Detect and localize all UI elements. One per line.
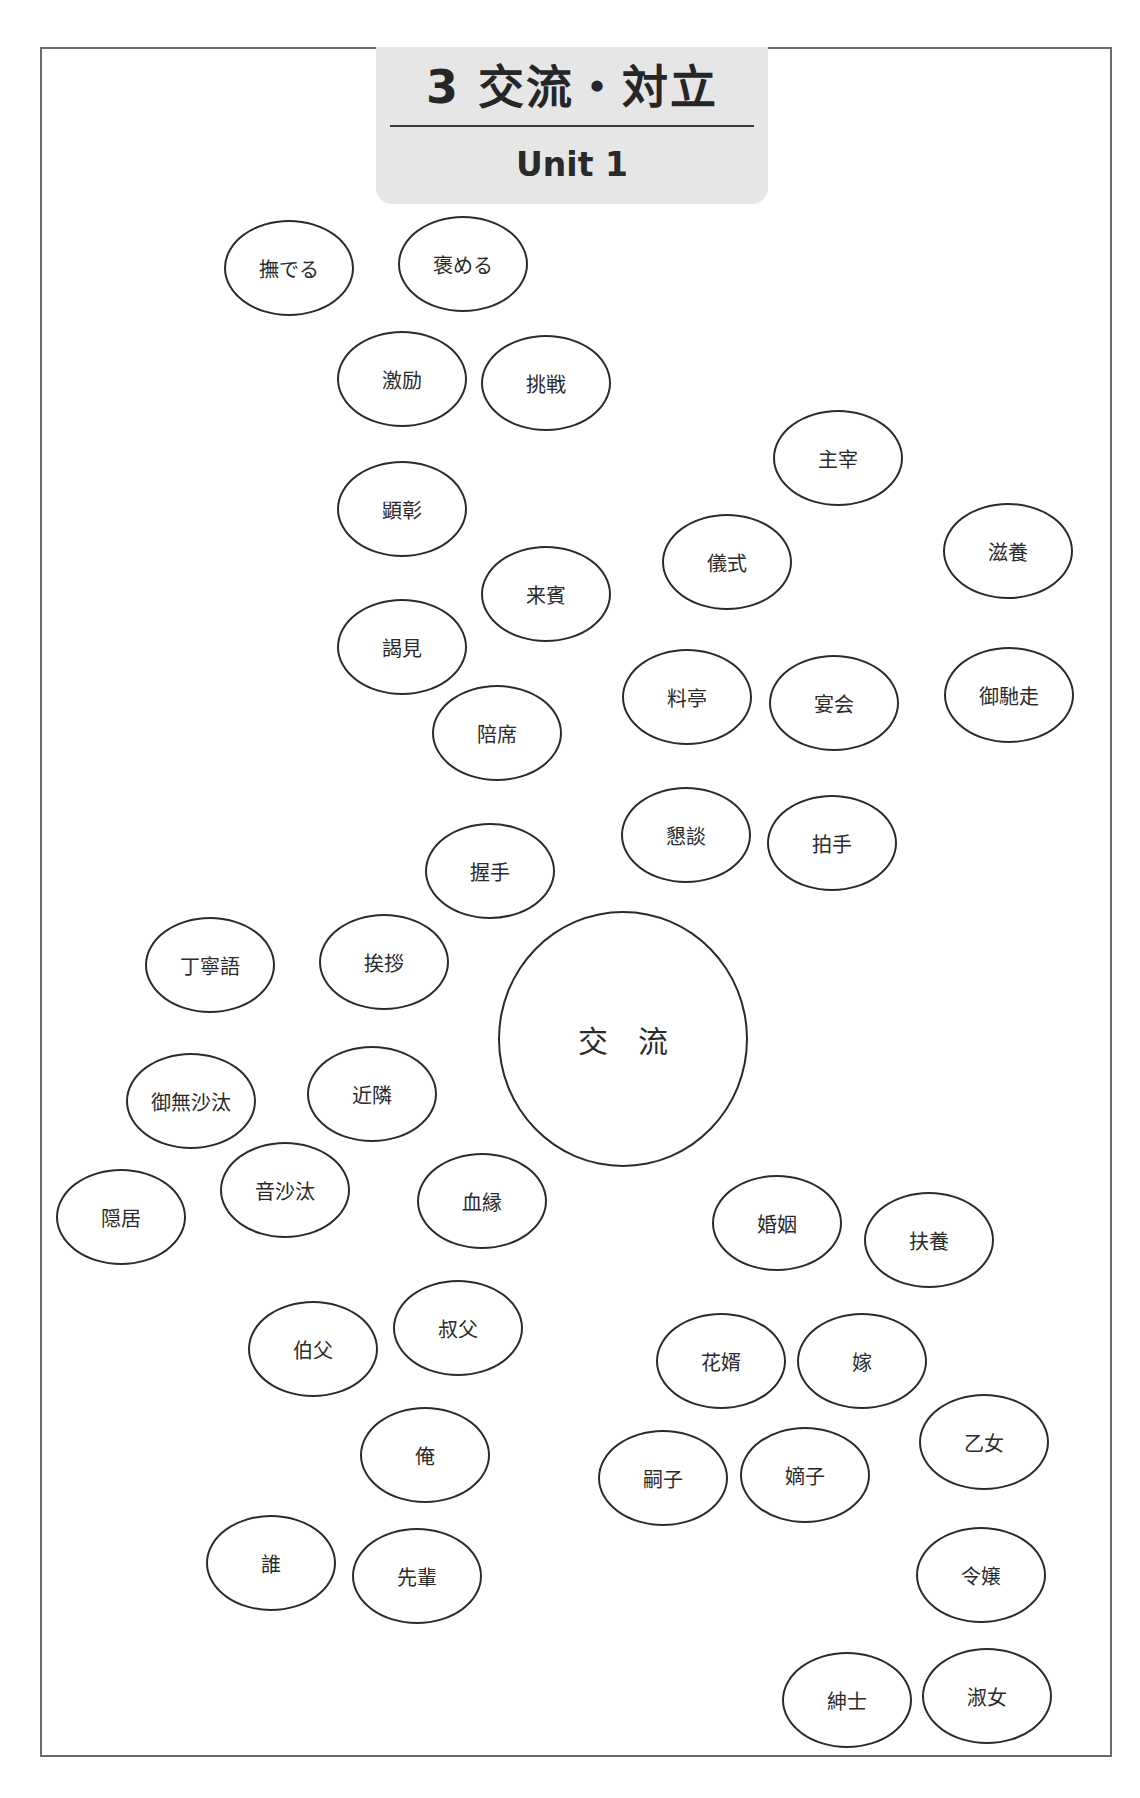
word-bubble: 血縁: [417, 1153, 547, 1249]
word-label: 叔父: [438, 1314, 478, 1343]
word-bubble: 料亭: [622, 649, 752, 745]
word-label: 先輩: [397, 1562, 437, 1591]
word-label: 血縁: [462, 1187, 502, 1216]
word-label: 扶養: [909, 1226, 949, 1255]
word-bubble: 嫁: [797, 1313, 927, 1409]
word-label: 婚姻: [757, 1209, 797, 1238]
word-bubble: 嫡子: [740, 1427, 870, 1523]
word-label: 嗣子: [643, 1464, 683, 1493]
word-label: 丁寧語: [180, 951, 240, 980]
word-bubble: 先輩: [352, 1528, 482, 1624]
word-label: 滋養: [988, 537, 1028, 566]
central-concept-label: 交 流: [568, 1017, 678, 1061]
word-label: 伯父: [293, 1335, 333, 1364]
word-bubble: 紳士: [782, 1652, 912, 1748]
word-bubble: 隠居: [56, 1169, 186, 1265]
word-label: 紳士: [827, 1686, 867, 1715]
word-bubble: 俺: [360, 1407, 490, 1503]
word-label: 嫁: [852, 1347, 872, 1376]
word-bubble: 挨拶: [319, 914, 449, 1010]
unit-header: 3 交流・対立 Unit 1: [376, 47, 768, 204]
word-label: 陪席: [477, 719, 517, 748]
diagram-frame: [40, 47, 1112, 1757]
word-label: 音沙汰: [255, 1176, 315, 1205]
word-bubble: 扶養: [864, 1192, 994, 1288]
word-bubble: 御馳走: [944, 647, 1074, 743]
word-label: 料亭: [667, 683, 707, 712]
word-bubble: 丁寧語: [145, 917, 275, 1013]
word-bubble: 叔父: [393, 1280, 523, 1376]
word-bubble: 音沙汰: [220, 1142, 350, 1238]
word-bubble: 花婿: [656, 1313, 786, 1409]
word-label: 拍手: [812, 829, 852, 858]
word-label: 乙女: [964, 1428, 1004, 1457]
word-bubble: 淑女: [922, 1648, 1052, 1744]
word-bubble: 拍手: [767, 795, 897, 891]
word-bubble: 宴会: [769, 655, 899, 751]
word-label: 握手: [470, 857, 510, 886]
word-bubble: 近隣: [307, 1046, 437, 1142]
word-bubble: 儀式: [662, 514, 792, 610]
word-bubble: 御無沙汰: [126, 1053, 256, 1149]
word-bubble: 嗣子: [598, 1430, 728, 1526]
word-label: 宴会: [814, 689, 854, 718]
word-bubble: 婚姻: [712, 1175, 842, 1271]
word-bubble: 握手: [425, 823, 555, 919]
word-label: 御馳走: [979, 681, 1039, 710]
word-label: 淑女: [967, 1682, 1007, 1711]
word-bubble: 来賓: [481, 546, 611, 642]
word-label: 挨拶: [364, 948, 404, 977]
word-label: 嫡子: [785, 1461, 825, 1490]
word-label: 御無沙汰: [151, 1087, 231, 1116]
word-label: 挑戦: [526, 369, 566, 398]
word-label: 令嬢: [961, 1561, 1001, 1590]
word-label: 褒める: [433, 250, 493, 279]
word-label: 近隣: [352, 1080, 392, 1109]
word-bubble: 主宰: [773, 410, 903, 506]
word-bubble: 撫でる: [224, 220, 354, 316]
word-label: 花婿: [701, 1347, 741, 1376]
word-label: 顕彰: [382, 495, 422, 524]
word-bubble: 顕彰: [337, 461, 467, 557]
word-bubble: 謁見: [337, 599, 467, 695]
word-label: 隠居: [101, 1203, 141, 1232]
word-bubble: 誰: [206, 1515, 336, 1611]
word-label: 謁見: [382, 633, 422, 662]
title-divider: [390, 125, 754, 127]
word-label: 撫でる: [259, 254, 319, 283]
word-bubble: 伯父: [248, 1301, 378, 1397]
word-label: 主宰: [818, 444, 858, 473]
central-concept-bubble: 交 流: [498, 911, 748, 1167]
word-label: 俺: [415, 1441, 435, 1470]
word-bubble: 挑戦: [481, 335, 611, 431]
word-bubble: 乙女: [919, 1394, 1049, 1490]
word-label: 懇談: [666, 821, 706, 850]
word-label: 儀式: [707, 548, 747, 577]
word-bubble: 懇談: [621, 787, 751, 883]
unit-label: Unit 1: [376, 145, 768, 185]
chapter-title: 3 交流・対立: [376, 61, 768, 113]
word-label: 来賓: [526, 580, 566, 609]
word-bubble: 滋養: [943, 503, 1073, 599]
word-bubble: 陪席: [432, 685, 562, 781]
word-bubble: 褒める: [398, 216, 528, 312]
word-label: 激励: [382, 365, 422, 394]
word-bubble: 令嬢: [916, 1527, 1046, 1623]
word-label: 誰: [261, 1549, 281, 1578]
word-bubble: 激励: [337, 331, 467, 427]
